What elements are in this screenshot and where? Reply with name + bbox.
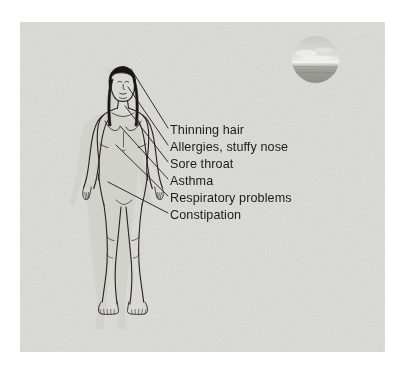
diagram-page: Thinning hair Allergies, stuffy nose Sor…: [0, 0, 405, 378]
right-eye: [125, 81, 129, 82]
circular-landscape-photo: [292, 36, 339, 83]
symptom-label-thinning-hair: Thinning hair: [170, 122, 375, 139]
chin: [120, 98, 127, 99]
left-eye: [118, 81, 122, 82]
symptom-label-allergies-stuffy-nose: Allergies, stuffy nose: [170, 139, 375, 156]
symptom-label-sore-throat: Sore throat: [170, 156, 375, 173]
nose: [123, 85, 125, 90]
foot-right-toes: [132, 309, 146, 314]
inset-landscape-art: [292, 36, 339, 83]
symptom-label-respiratory-problems: Respiratory problems: [170, 190, 375, 207]
leg-right-outer: [139, 205, 144, 302]
symptom-label-asthma: Asthma: [170, 173, 375, 190]
symptom-label-list: Thinning hair Allergies, stuffy nose Sor…: [170, 122, 375, 224]
mouth: [120, 93, 126, 94]
knee-right: [132, 237, 139, 241]
symptom-label-constipation: Constipation: [170, 207, 375, 224]
standing-female-figure: [69, 67, 163, 331]
illustration-panel: Thinning hair Allergies, stuffy nose Sor…: [20, 22, 385, 352]
